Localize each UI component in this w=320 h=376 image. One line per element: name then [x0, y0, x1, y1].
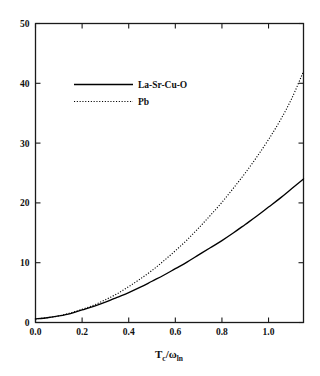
x-tick-label: 0.4: [123, 327, 135, 337]
legend-label-2: Pb: [138, 97, 149, 107]
x-axis-title-sub-ln: ln: [177, 354, 184, 363]
y-tick-label: 20: [20, 198, 30, 208]
chart-figure: 0.00.20.40.60.81.0 01020304050 La-Sr-Cu-…: [0, 0, 320, 376]
x-tick-label: 0.6: [169, 327, 181, 337]
y-tick-label: 40: [20, 79, 30, 89]
y-tick-label: 50: [20, 19, 30, 29]
y-tick-label: 30: [20, 139, 30, 149]
x-tick-label: 0.2: [76, 327, 88, 337]
x-tick-label: 0.0: [30, 327, 42, 337]
x-axis-title-base-omega: ω: [169, 348, 177, 360]
y-tick-label: 0: [25, 318, 30, 328]
figure-background: [0, 0, 320, 376]
x-tick-label: 1.0: [263, 327, 275, 337]
x-tick-label: 0.8: [216, 327, 228, 337]
y-tick-label: 10: [20, 258, 30, 268]
legend-label-1: La-Sr-Cu-O: [138, 80, 187, 90]
